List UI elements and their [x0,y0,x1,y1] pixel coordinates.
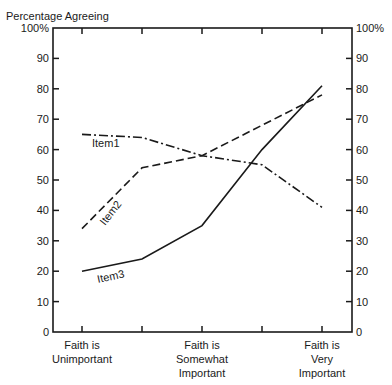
series-label-item2: Item2 [97,198,123,227]
y-tick-label-right: 20 [356,265,368,277]
x-category-label: Important [299,367,345,379]
series-label-item3: Item3 [96,267,125,284]
y-tick-label-right: 0 [356,326,362,338]
y-tick-label-right: 100% [356,22,384,34]
y-tick-label-left: 100% [21,22,49,34]
x-category-label: Faith is [304,339,340,351]
y-tick-label-right: 90 [356,52,368,64]
y-tick-label-left: 40 [37,204,49,216]
y-tick-label-right: 40 [356,204,368,216]
y-tick-label-left: 90 [37,52,49,64]
y-tick-label-left: 70 [37,113,49,125]
series-label-item1: Item1 [92,137,120,149]
y-tick-label-right: 70 [356,113,368,125]
x-category-label: Faith is [184,339,220,351]
y-tick-label-right: 80 [356,83,368,95]
x-category-label: Faith is [64,339,100,351]
plot-frame [53,28,352,332]
y-tick-label-left: 20 [37,265,49,277]
y-tick-label-left: 10 [37,296,49,308]
y-tick-label-left: 50 [37,174,49,186]
y-axis-title: Percentage Agreeing [6,10,109,22]
y-tick-label-right: 60 [356,144,368,156]
x-category-label: Somewhat [176,353,228,365]
y-tick-label-right: 30 [356,235,368,247]
x-category-label: Unimportant [52,353,112,365]
y-tick-label-left: 60 [37,144,49,156]
y-tick-label-left: 80 [37,83,49,95]
x-category-label: Important [179,367,225,379]
y-tick-label-right: 50 [356,174,368,186]
series-lines [82,86,322,271]
line-chart: Percentage Agreeing 00101020203030404050… [0,0,392,385]
y-tick-label-left: 0 [43,326,49,338]
y-tick-label-left: 30 [37,235,49,247]
x-category-label: Very [311,353,334,365]
y-tick-label-right: 10 [356,296,368,308]
axis-ticks: 0010102020303040405050606070708080909010… [21,22,384,379]
